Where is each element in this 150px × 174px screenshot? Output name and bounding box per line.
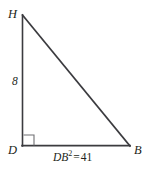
equals-sign: = <box>72 151 81 163</box>
db-value: 41 <box>81 151 93 163</box>
side-label-db-expression: DB2=41 <box>53 152 92 164</box>
segment-hb <box>23 15 131 146</box>
geometry-figure: H D B 8 DB2=41 <box>0 0 150 174</box>
right-angle-marker-icon <box>24 135 35 146</box>
vertex-label-h: H <box>8 8 17 21</box>
side-label-dh: 8 <box>12 76 18 88</box>
triangle-outline <box>22 15 130 146</box>
vertex-label-b: B <box>134 144 142 157</box>
vertex-label-d: D <box>8 144 17 157</box>
db-variable: DB <box>53 151 68 163</box>
triangle-diagram-svg <box>0 0 150 174</box>
